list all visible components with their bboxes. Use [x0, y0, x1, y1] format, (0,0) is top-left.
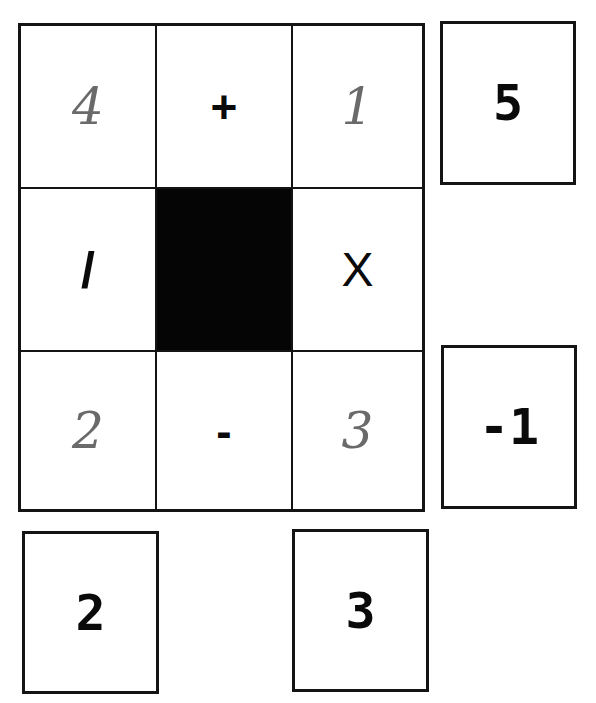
cell-r3c2: -	[157, 352, 293, 509]
blocked-cell	[157, 189, 293, 352]
minus-operator: -	[216, 404, 231, 458]
cell-r3c3[interactable]: 3	[293, 352, 422, 509]
cell-r2c3: X	[293, 189, 422, 352]
cell-r1c2: +	[157, 26, 293, 189]
cell-r3c1[interactable]: 2	[21, 352, 157, 509]
column-1-result: 2	[22, 531, 159, 694]
multiply-operator: X	[341, 242, 373, 297]
result-value: 3	[345, 582, 375, 640]
row-1-result: 5	[440, 21, 576, 185]
divide-operator: /	[81, 241, 95, 299]
result-value: 5	[493, 74, 523, 132]
row-3-result: -1	[441, 345, 577, 509]
handwritten-digit: 4	[72, 78, 104, 136]
result-value: 2	[75, 584, 105, 642]
puzzle-grid: 4 + 1 / X 2 - 3	[18, 23, 425, 512]
cell-r2c1: /	[21, 189, 157, 352]
column-3-result: 3	[292, 529, 429, 692]
handwritten-digit: 3	[342, 402, 374, 460]
handwritten-digit: 1	[342, 78, 374, 136]
handwritten-digit: 2	[72, 402, 104, 460]
result-value: -1	[479, 398, 539, 456]
plus-operator: +	[211, 80, 238, 134]
cell-r1c3[interactable]: 1	[293, 26, 422, 189]
cell-r1c1[interactable]: 4	[21, 26, 157, 189]
